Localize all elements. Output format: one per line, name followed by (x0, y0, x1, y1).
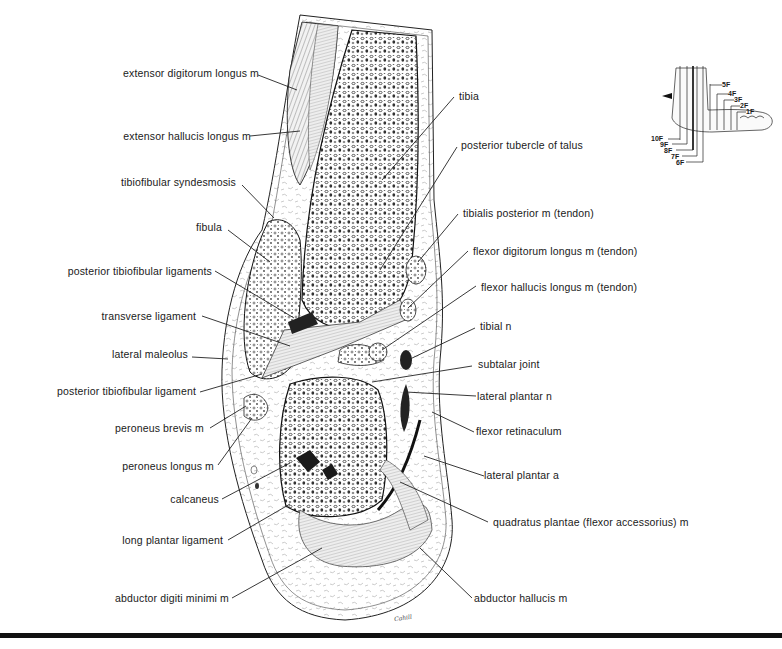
label-peroneus-longus: peroneus longus m (122, 460, 214, 472)
inset-plane-6f: 6F (676, 159, 684, 167)
label-extensor-hallucis-longus: extensor hallucis longus m (123, 130, 251, 142)
label-lateral-plantar-a: lateral plantar a (484, 469, 559, 481)
label-lateral-maleolus: lateral maleolus (112, 348, 188, 360)
anatomical-illustration (0, 0, 782, 649)
inset-foot-key (668, 66, 772, 162)
label-abductor-digiti-minimi: abductor digiti minimi m (115, 592, 229, 604)
label-quadratus-plantae: quadratus plantae (flexor accessorius) m (493, 516, 689, 528)
label-posterior-tibiofibular-ligaments: posterior tibiofibular ligaments (68, 265, 212, 277)
label-peroneus-brevis: peroneus brevis m (115, 422, 204, 434)
inset-plane-5f: 5F (722, 81, 730, 89)
label-calcaneus: calcaneus (170, 493, 219, 505)
label-flexor-retinaculum: flexor retinaculum (476, 425, 562, 437)
label-flexor-hallucis-longus: flexor hallucis longus m (tendon) (481, 281, 637, 293)
section-arrow-icon (662, 93, 672, 99)
label-posterior-tubercle-of-talus: posterior tubercle of talus (461, 139, 583, 151)
bottom-border-bar (0, 633, 782, 638)
label-extensor-digitorum-longus: extensor digitorum longus m (123, 67, 259, 79)
label-tibiofibular-syndesmosis: tibiofibular syndesmosis (121, 176, 236, 188)
label-subtalar-joint: subtalar joint (478, 358, 540, 370)
label-abductor-hallucis: abductor hallucis m (474, 592, 567, 604)
label-transverse-ligament: transverse ligament (102, 310, 196, 322)
label-tibial-n: tibial n (480, 320, 512, 332)
label-long-plantar-ligament: long plantar ligament (122, 534, 223, 546)
label-fibula: fibula (196, 221, 222, 233)
label-lateral-plantar-n: lateral plantar n (477, 390, 552, 402)
label-posterior-tibiofibular-ligament: posterior tibiofibular ligament (57, 385, 196, 397)
inset-plane-1f: 1F (746, 108, 754, 116)
label-flexor-digitorum-longus: flexor digitorum longus m (tendon) (473, 245, 637, 257)
label-tibialis-posterior: tibialis posterior m (tendon) (463, 207, 594, 219)
label-tibia: tibia (459, 90, 479, 102)
